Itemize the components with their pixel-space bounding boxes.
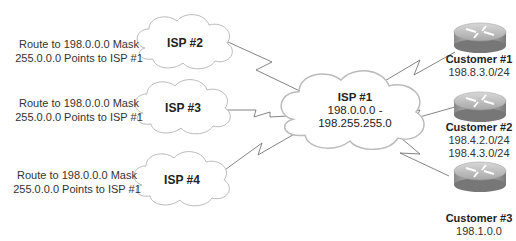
isp-name: ISP #3 <box>158 101 208 116</box>
isp4-label: ISP #4 <box>157 173 207 188</box>
route-note-isp2: Route to 198.0.0.0 Mask 255.0.0.0 Points… <box>4 37 154 65</box>
route-note-line: Route to 198.0.0.0 Mask <box>2 168 152 182</box>
isp1-range: 198.0.0.0 - <box>310 104 400 117</box>
route-note-isp4: Route to 198.0.0.0 Mask 255.0.0.0 Points… <box>2 168 152 196</box>
route-note-line: 255.0.0.0 Points to ISP #1 <box>2 182 152 196</box>
route-note-line: Route to 198.0.0.0 Mask <box>4 96 154 110</box>
isp2-label: ISP #2 <box>160 36 210 51</box>
router-icon <box>454 92 506 122</box>
customer-prefix: 198.8.3.0/24 <box>448 66 509 78</box>
isp-name: ISP #1 <box>310 91 400 104</box>
customer-name: Customer #1 <box>436 53 516 66</box>
customer-2-label: Customer #2 198.4.2.0/24 198.4.3.0/24 <box>436 121 516 160</box>
route-note-line: 255.0.0.0 Points to ISP #1 <box>4 110 154 124</box>
customer-prefix: 198.4.2.0/24 <box>436 134 516 147</box>
route-note-line: 255.0.0.0 Points to ISP #1 <box>4 51 154 65</box>
route-note-line: Route to 198.0.0.0 Mask <box>4 37 154 51</box>
customer-1-label: Customer #1 198.8.3.0/24 <box>436 53 516 79</box>
customer-3-label: Customer #3 198.1.0.0 <box>436 212 516 238</box>
isp-name: ISP #4 <box>157 173 207 188</box>
route-note-isp3: Route to 198.0.0.0 Mask 255.0.0.0 Points… <box>4 96 154 124</box>
customer-prefix: 198.4.3.0/24 <box>436 147 516 160</box>
customer-name: Customer #2 <box>436 121 516 134</box>
customer-name: Customer #3 <box>436 212 516 225</box>
isp1-range: 198.255.255.0 <box>310 117 400 130</box>
isp3-label: ISP #3 <box>158 101 208 116</box>
router-icon <box>454 162 506 192</box>
customer-prefix: 198.1.0.0 <box>456 225 502 237</box>
router-icon <box>454 23 506 53</box>
isp-name: ISP #2 <box>160 36 210 51</box>
isp1-label: ISP #1 198.0.0.0 - 198.255.255.0 <box>310 91 400 130</box>
